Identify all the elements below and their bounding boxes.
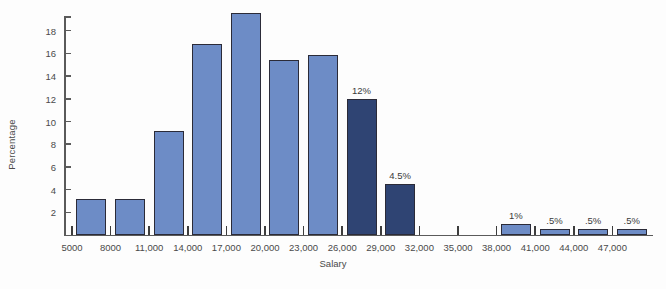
y-axis-tick-label: 8 (30, 139, 56, 150)
bar (347, 99, 377, 235)
x-axis-tick (303, 226, 305, 235)
x-axis-tick (419, 226, 421, 235)
x-axis-tick-label: 35,000 (443, 242, 472, 253)
x-axis-tick-label: 32,000 (405, 242, 434, 253)
bar (192, 44, 222, 235)
y-axis-tick (64, 189, 71, 191)
bar (385, 184, 415, 235)
bar (231, 13, 261, 235)
x-axis-tick-label: 5000 (61, 242, 82, 253)
x-axis-tick (71, 226, 73, 235)
x-axis-tick-label: 8000 (100, 242, 121, 253)
y-axis-tick-label: 4 (30, 184, 56, 195)
bar (308, 55, 338, 235)
y-axis-tick (64, 121, 71, 123)
x-axis-tick-label: 23,000 (289, 242, 318, 253)
x-axis-tick (380, 226, 382, 235)
bar (501, 224, 531, 235)
bar (617, 229, 647, 235)
x-axis-tick (496, 226, 498, 235)
bar (76, 199, 106, 235)
x-axis-tick (148, 226, 150, 235)
bar (115, 199, 145, 235)
x-axis-tick-label: 47,000 (598, 242, 627, 253)
y-axis-title: Percentage (0, 0, 22, 289)
x-axis-tick (226, 226, 228, 235)
x-axis-title: Salary (0, 258, 666, 269)
x-axis-tick-label: 17,000 (212, 242, 241, 253)
x-axis-tick-label: 14,000 (173, 242, 202, 253)
x-axis-tick (110, 226, 112, 235)
y-axis-tick (64, 30, 71, 32)
bar-value-label: 4.5% (389, 170, 411, 181)
bar-value-label: 1% (509, 210, 523, 221)
x-axis-tick-label: 20,000 (250, 242, 279, 253)
bar-chart: Percentage 24681012141618 5000800011,000… (0, 0, 666, 289)
x-axis-tick (341, 226, 343, 235)
x-axis-tick-label: 44,000 (559, 242, 588, 253)
y-axis-tick (64, 143, 71, 145)
y-axis-tick (64, 75, 71, 77)
x-axis-tick-label: 38,000 (482, 242, 511, 253)
x-axis-tick-label: 29,000 (366, 242, 395, 253)
y-axis-tick (64, 98, 71, 100)
x-axis-tick (612, 226, 614, 235)
bar-value-label: .5% (624, 215, 640, 226)
bar (154, 131, 184, 235)
y-axis-tick-label: 18 (30, 25, 56, 36)
y-axis-tick (64, 212, 71, 214)
x-axis-tick-label: 26,000 (328, 242, 357, 253)
y-axis-tick (64, 53, 71, 55)
bar-value-label: 12% (352, 85, 371, 96)
bar (540, 229, 570, 235)
y-axis-tick-label: 6 (30, 161, 56, 172)
x-axis-tick (457, 226, 459, 235)
bar-value-label: .5% (585, 215, 601, 226)
x-axis-tick-label: 11,000 (135, 242, 163, 253)
x-axis-tick (573, 226, 575, 235)
bar (269, 60, 299, 235)
bar-value-label: .5% (546, 215, 562, 226)
bar (578, 229, 608, 235)
y-axis-line (64, 16, 66, 235)
y-axis-tick-label: 16 (30, 48, 56, 59)
x-axis-tick (264, 226, 266, 235)
y-axis-top-cap (64, 16, 71, 18)
y-axis-tick-label: 14 (30, 71, 56, 82)
y-axis-tick (64, 166, 71, 168)
y-axis-tick-label: 10 (30, 116, 56, 127)
y-axis-tick-label: 12 (30, 93, 56, 104)
x-axis-tick (187, 226, 189, 235)
y-axis-tick-label: 2 (30, 207, 56, 218)
x-axis-tick (534, 226, 536, 235)
x-axis-tick-label: 41,000 (521, 242, 550, 253)
